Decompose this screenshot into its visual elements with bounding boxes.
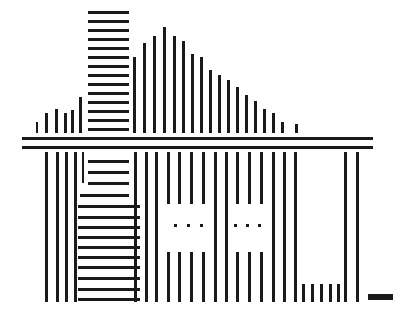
figure-canvas: [0, 0, 401, 315]
baseline-dash: [0, 0, 401, 315]
bar-mark: [368, 294, 393, 300]
